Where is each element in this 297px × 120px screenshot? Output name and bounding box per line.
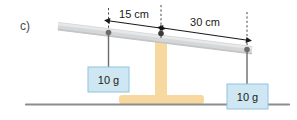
dimension-left-arm: 15 cm	[110, 8, 160, 28]
dimension-right-arm-label: 30 cm	[190, 16, 220, 28]
part-label: c)	[20, 19, 30, 33]
dimension-left-arm-line	[110, 21, 160, 28]
dimension-left-arm-label: 15 cm	[119, 8, 149, 20]
right-mass-label: 10 g	[237, 91, 258, 103]
dimension-right-arm: 30 cm	[163, 16, 246, 40]
stand-column	[155, 36, 167, 98]
left-hanger-group: 10 g	[88, 30, 129, 92]
lever-balance-diagram: 15 cm 30 cm 10 g 10 g c)	[0, 0, 297, 120]
diagram-canvas: 15 cm 30 cm 10 g 10 g c)	[0, 0, 297, 120]
left-mass-label: 10 g	[98, 74, 119, 86]
fulcrum-pivot-dot	[158, 31, 164, 37]
right-hanger-group: 10 g	[227, 47, 268, 109]
